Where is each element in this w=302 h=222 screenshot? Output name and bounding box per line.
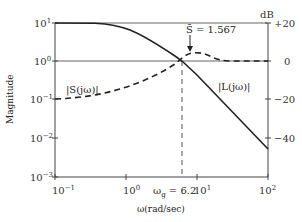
bode-magnitude-chart: 101 100 10−1 10−2 10−3 10−1 100 101 102 … — [0, 0, 302, 222]
y-tick-labels: 101 100 10−1 10−2 10−3 — [30, 17, 53, 183]
svg-text:102: 102 — [259, 184, 276, 196]
peak-arrow — [187, 35, 193, 52]
svg-text:−20: −20 — [274, 94, 295, 105]
y2-tick-labels: dB +20 0 −20 −40 — [260, 9, 295, 144]
peak-sensitivity-label: S̄ = 1.567 — [186, 24, 236, 35]
svg-text:+20: +20 — [274, 18, 295, 29]
s-curve-label: |S(jω)| — [66, 84, 99, 96]
svg-text:10−1: 10−1 — [30, 93, 53, 105]
svg-text:100: 100 — [123, 184, 140, 196]
svg-text:0: 0 — [284, 56, 290, 67]
svg-text:100: 100 — [34, 55, 51, 67]
svg-text:101: 101 — [34, 17, 51, 29]
l-curve-label: |L(jω)| — [218, 81, 250, 93]
db-unit-label: dB — [260, 9, 274, 20]
x-axis-title: ω(rad/sec) — [137, 204, 185, 214]
svg-text:10−2: 10−2 — [30, 132, 53, 144]
svg-text:10−1: 10−1 — [52, 184, 75, 196]
y-axis-title: Magnitude — [5, 74, 15, 124]
svg-text:−40: −40 — [274, 133, 295, 144]
svg-text:10−3: 10−3 — [30, 171, 53, 183]
svg-text:101: 101 — [194, 184, 211, 196]
crossover-label: ωg = 6.2 — [153, 185, 196, 199]
